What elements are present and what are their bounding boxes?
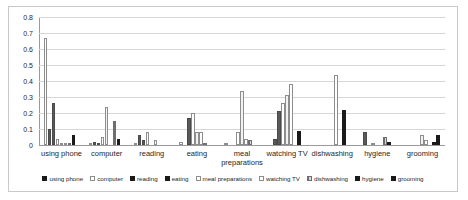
x-label-watching-TV: watching TV: [265, 149, 310, 158]
bar: [297, 131, 301, 145]
legend-swatch-icon: [307, 176, 312, 181]
x-label-meal-preparations: meal preparations: [219, 149, 264, 167]
y-tick-label: 0: [29, 142, 33, 149]
y-tick-label: 0.6: [23, 46, 33, 53]
chart-legend: using phonecomputerreadingeatingmeal pre…: [9, 175, 457, 182]
bar: [179, 142, 183, 145]
legend-label: eating: [172, 175, 189, 182]
bar: [248, 140, 252, 145]
legend-label: dishwashing: [314, 175, 348, 182]
bar: [363, 132, 367, 145]
bar: [203, 143, 207, 145]
legend-label: meal preparations: [203, 175, 253, 182]
bar: [342, 110, 346, 145]
legend-label: reading: [137, 175, 158, 182]
bar: [154, 140, 158, 145]
bar: [240, 91, 244, 145]
x-label-hygiene: hygiene: [355, 149, 400, 158]
legend-swatch-icon: [391, 176, 396, 181]
legend-swatch-icon: [355, 176, 360, 181]
y-axis-tick-labels: 00.10.20.30.40.50.60.70.8: [9, 17, 36, 145]
legend-label: watching TV: [266, 175, 300, 182]
y-tick-label: 0.7: [23, 30, 33, 37]
bar: [224, 143, 228, 145]
legend-swatch-icon: [42, 176, 47, 181]
bar: [424, 140, 428, 145]
legend-swatch-icon: [259, 176, 264, 181]
legend-swatch-icon: [130, 176, 135, 181]
plot-area: [39, 17, 445, 145]
legend-item[interactable]: dishwashing: [307, 175, 348, 182]
x-label-eating: eating: [174, 149, 219, 158]
legend-label: using phone: [49, 175, 83, 182]
legend-label: hygiene: [362, 175, 384, 182]
y-tick-label: 0.3: [23, 94, 33, 101]
y-tick-label: 0.5: [23, 62, 33, 69]
gridline: [39, 145, 445, 146]
x-label-dishwashing: dishwashing: [310, 149, 355, 158]
bar: [117, 139, 121, 145]
x-axis-category-labels: using phonecomputerreadingeatingmeal pre…: [39, 149, 445, 173]
legend-swatch-icon: [90, 176, 95, 181]
legend-label: grooming: [398, 175, 424, 182]
x-label-using-phone: using phone: [39, 149, 84, 158]
legend-item[interactable]: grooming: [391, 175, 424, 182]
legend-label: computer: [97, 175, 123, 182]
bar: [105, 107, 109, 145]
y-tick-label: 0.8: [23, 14, 33, 21]
bar: [334, 75, 338, 145]
legend-item[interactable]: eating: [165, 175, 189, 182]
legend-swatch-icon: [196, 176, 201, 181]
y-tick-label: 0.2: [23, 110, 33, 117]
legend-item[interactable]: using phone: [42, 175, 83, 182]
bar: [146, 132, 150, 145]
y-tick-label: 0.1: [23, 126, 33, 133]
chart-frame: 00.10.20.30.40.50.60.70.8 using phonecom…: [8, 6, 458, 192]
x-label-grooming: grooming: [400, 149, 445, 158]
bar: [371, 143, 375, 145]
legend-item[interactable]: watching TV: [259, 175, 300, 182]
x-label-computer: computer: [84, 149, 129, 158]
bars-layer: [39, 17, 445, 145]
legend-item[interactable]: reading: [130, 175, 158, 182]
legend-item[interactable]: computer: [90, 175, 123, 182]
bar: [72, 135, 76, 145]
bar: [387, 142, 391, 145]
legend-swatch-icon: [165, 176, 170, 181]
legend-item[interactable]: meal preparations: [196, 175, 253, 182]
bar: [289, 84, 293, 145]
y-tick-label: 0.4: [23, 78, 33, 85]
bar: [436, 135, 440, 145]
legend-item[interactable]: hygiene: [355, 175, 384, 182]
x-label-reading: reading: [129, 149, 174, 158]
